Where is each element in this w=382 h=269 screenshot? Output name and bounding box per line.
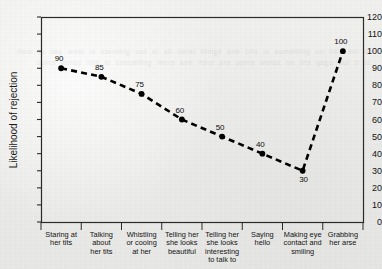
x-category-label-line: beautiful	[163, 248, 201, 256]
x-category-label-2: Talkingabouther tits	[81, 231, 121, 256]
data-point-marker	[179, 117, 185, 123]
x-category-label-8: Grabbingher arse	[323, 231, 363, 248]
x-category-label-line: hello	[243, 239, 281, 247]
x-category-label-line: her arse	[324, 239, 362, 247]
value-label-50: 50	[216, 123, 225, 132]
value-label-40: 40	[256, 140, 265, 149]
data-point-marker	[219, 134, 225, 140]
data-point-marker	[259, 151, 265, 157]
data-point-marker	[98, 74, 104, 80]
x-category-label-1: Staring ather tits	[41, 231, 81, 248]
plot-area	[0, 0, 382, 269]
x-category-label-4: Telling hershe looksbeautiful	[162, 231, 202, 256]
value-label-90: 90	[55, 54, 64, 63]
data-point-marker	[300, 168, 306, 174]
x-category-label-line: smiling	[284, 248, 322, 256]
x-category-label-5: Telling hershe looksinterestingto talk t…	[202, 231, 242, 265]
value-label-75: 75	[135, 80, 144, 89]
x-category-label-line: her tits	[82, 248, 120, 256]
x-category-label-line: her tits	[42, 239, 80, 247]
plot-frame	[42, 18, 364, 223]
x-category-label-line: at her	[123, 248, 161, 256]
data-point-marker	[340, 48, 346, 54]
x-category-label-6: Sayinghello	[242, 231, 282, 248]
value-label-60: 60	[175, 106, 184, 115]
rejection-likelihood-line-chart: Likelihood of rejection 0102030405060708…	[0, 0, 382, 269]
data-point-marker	[139, 91, 145, 97]
x-category-label-7: Making eyecontact andsmiling	[283, 231, 323, 256]
data-point-marker	[58, 65, 64, 71]
value-label-85: 85	[95, 63, 104, 72]
x-category-label-3: Whistlingor cooingat her	[122, 231, 162, 256]
value-label-100: 100	[334, 37, 347, 46]
value-label-30: 30	[299, 175, 308, 184]
x-category-label-line: to talk to	[203, 256, 241, 264]
